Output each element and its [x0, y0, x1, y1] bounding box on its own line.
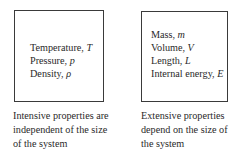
property-density: Density, ρ	[30, 67, 92, 80]
property-symbol: L	[185, 55, 191, 66]
intensive-properties-box: Temperature, T Pressure, p Density, ρ	[14, 10, 104, 102]
property-symbol: T	[86, 42, 92, 53]
property-symbol: E	[217, 68, 223, 79]
property-volume: Volume, V	[151, 41, 223, 54]
property-symbol: p	[70, 55, 75, 66]
property-mass: Mass, m	[151, 28, 223, 41]
property-symbol: m	[178, 29, 185, 40]
caption-line: depend on the size of	[141, 123, 228, 137]
extensive-properties-list: Mass, m Volume, V Length, L Internal ene…	[151, 28, 223, 80]
property-pressure: Pressure, p	[30, 54, 92, 67]
property-label: Volume,	[151, 42, 188, 53]
property-temperature: Temperature, T	[30, 41, 92, 54]
property-internal-energy: Internal energy, E	[151, 67, 223, 80]
property-label: Internal energy,	[151, 68, 217, 79]
caption-line: of the system	[13, 137, 109, 151]
property-symbol: ρ	[66, 68, 71, 79]
intensive-properties-list: Temperature, T Pressure, p Density, ρ	[30, 41, 92, 80]
property-label: Temperature,	[30, 42, 86, 53]
caption-line: Extensive properties	[141, 109, 228, 123]
extensive-properties-box: Mass, m Volume, V Length, L Internal ene…	[141, 11, 228, 102]
property-label: Density,	[30, 68, 66, 79]
caption-line: Intensive properties are	[13, 109, 109, 123]
caption-line: independent of the size	[13, 123, 109, 137]
intensive-caption: Intensive properties are independent of …	[13, 109, 109, 151]
extensive-caption: Extensive properties depend on the size …	[141, 109, 228, 151]
property-symbol: V	[188, 42, 194, 53]
caption-line: the system	[141, 137, 228, 151]
property-length: Length, L	[151, 54, 223, 67]
property-label: Mass,	[151, 29, 178, 40]
property-label: Pressure,	[30, 55, 70, 66]
property-label: Length,	[151, 55, 185, 66]
